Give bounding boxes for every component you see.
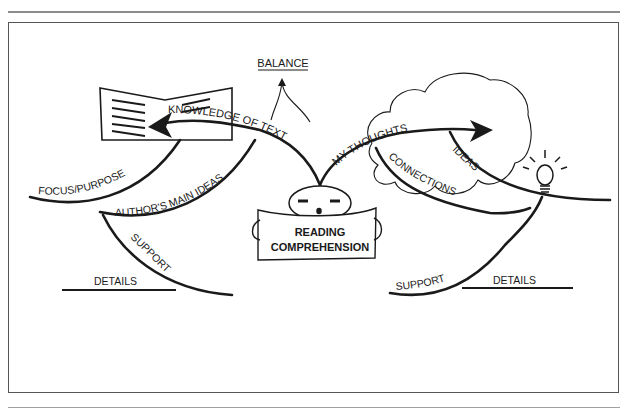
details-left-label: DETAILS [94, 275, 137, 287]
svg-text:CONNECTIONS: CONNECTIONS [387, 150, 459, 198]
ideas-label: IDEAS [451, 143, 482, 173]
support-right-label: SUPPORT [395, 271, 446, 292]
svg-text:FOCUS/PURPOSE: FOCUS/PURPOSE [38, 166, 127, 196]
focus-purpose-label: FOCUS/PURPOSE [38, 166, 127, 196]
balance-arrow-icon [278, 78, 286, 86]
svg-text:IDEAS: IDEAS [451, 143, 482, 173]
center-label-line2: COMPREHENSION [271, 241, 369, 253]
svg-text:SUPPORT: SUPPORT [395, 271, 446, 292]
lightbulb-icon [523, 150, 567, 192]
reading-comprehension-diagram: BALANCE READING COMPREHENSION KNOWLEDGE … [0, 0, 627, 418]
balance-label: BALANCE [257, 57, 308, 69]
details-right-label: DETAILS [493, 274, 536, 286]
balance-brace [271, 82, 310, 122]
connections-label: CONNECTIONS [387, 150, 459, 198]
center-label-line1: READING [295, 226, 346, 238]
